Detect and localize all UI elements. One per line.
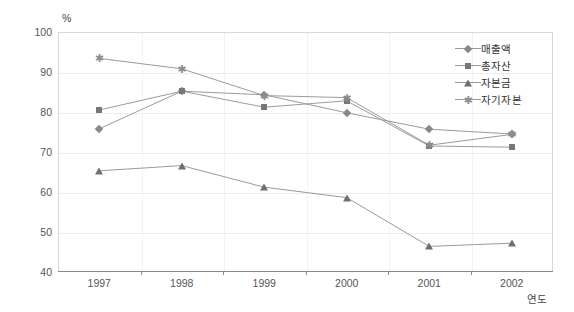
legend-swatch (455, 76, 481, 90)
x-axis-title: 연도 (527, 291, 547, 306)
line-chart: % 100908070605040 1997199819992000200120… (0, 0, 574, 312)
x-axis-tick-mark (471, 271, 472, 275)
legend-line (455, 65, 481, 66)
x-axis-tick-mark (223, 271, 224, 275)
x-axis-tick-mark (141, 271, 142, 275)
series-line (99, 91, 512, 134)
legend-item[interactable]: 자본금 (455, 74, 551, 91)
series-line (99, 166, 512, 247)
legend-line (455, 48, 481, 49)
legend-item[interactable]: 매출액 (455, 40, 551, 57)
legend-label: 총자산 (481, 58, 512, 73)
diamond-marker-icon (464, 44, 472, 52)
star-marker-icon: ✱ (463, 96, 472, 103)
series-line (99, 58, 512, 145)
square-marker-icon (465, 63, 471, 69)
legend-label: 자본금 (481, 75, 512, 90)
legend-line (455, 99, 481, 100)
legend-swatch (455, 59, 481, 73)
legend-item[interactable]: ✱자기자본 (455, 91, 551, 108)
chart-legend: 매출액총자산자본금✱자기자본 (455, 40, 551, 108)
legend-label: 매출액 (481, 41, 512, 56)
legend-label: 자기자본 (481, 92, 522, 107)
triangle-marker-icon (464, 79, 472, 86)
series-line (99, 91, 512, 147)
legend-swatch: ✱ (455, 93, 481, 107)
legend-item[interactable]: 총자산 (455, 57, 551, 74)
x-axis-tick-mark (306, 271, 307, 275)
legend-swatch (455, 42, 481, 56)
legend-line (455, 82, 481, 83)
x-axis-tick-mark (388, 271, 389, 275)
